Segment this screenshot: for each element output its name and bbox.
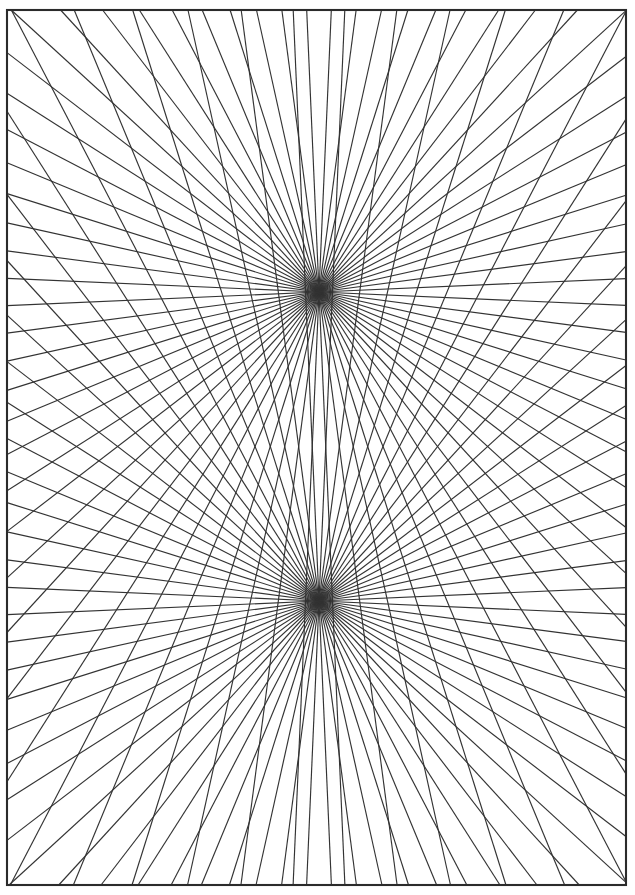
radial-line-figure-canvas [0, 0, 635, 895]
figure-root [0, 0, 635, 895]
figure-background [0, 0, 635, 895]
